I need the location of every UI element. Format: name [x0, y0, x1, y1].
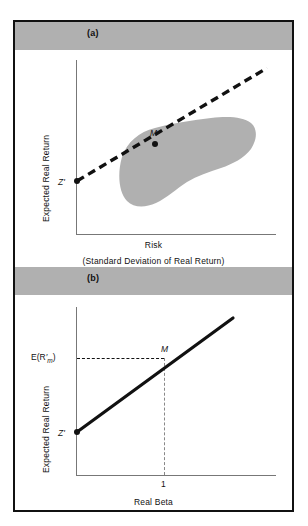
y-tick-prefix: E(R [31, 352, 46, 362]
panel-a-market-point-label: M [150, 128, 157, 138]
panel-b-y-tick-label: E(R′m) [31, 352, 56, 364]
panel-b: (b) Expected Real Return M Z' E(R′m) [15, 267, 292, 510]
panel-a-plot-area: Expected Real Return M Z' Risk (Standard… [15, 50, 292, 267]
panel-b-plot-area: Expected Real Return M Z' E(R′m) 1 [15, 295, 292, 510]
panel-b-x-tick-label: 1 [161, 479, 166, 489]
panel-a: (a) Expected Real Return M Z' Risk [15, 22, 292, 267]
panel-a-label: (a) [87, 28, 99, 38]
panel-b-label: (b) [87, 273, 99, 283]
panel-b-x-axis-label: Real Beta [15, 497, 292, 507]
panel-a-x-axis-label-sub: (Standard Deviation of Real Return) [15, 256, 292, 266]
capital-market-line [15, 50, 296, 250]
panel-b-zero-beta-label: Z' [58, 428, 65, 438]
panel-a-zero-beta-label: Z' [58, 177, 65, 187]
panel-a-zero-beta-point [74, 178, 80, 184]
y-tick-suffix: ) [53, 352, 56, 362]
security-market-line [15, 295, 296, 495]
panel-b-zero-beta-point [74, 429, 80, 435]
panel-a-title-band [15, 22, 292, 50]
panel-b-title-band [15, 267, 292, 295]
panel-a-market-point [152, 141, 158, 147]
figure-frame: (a) Expected Real Return M Z' Risk [13, 20, 294, 512]
panel-b-market-point-label: M [161, 344, 168, 354]
panel-a-x-axis-label-main: Risk [15, 240, 292, 250]
